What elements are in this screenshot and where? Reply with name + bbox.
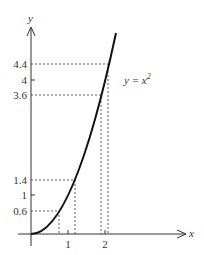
x-tick-1: 1 (65, 238, 71, 250)
y-tick-0-6: 0.6 (13, 205, 27, 217)
y-tick-3-6: 3.6 (13, 89, 27, 101)
y-tick-4: 4 (22, 74, 28, 86)
y-tick-1-4: 1.4 (13, 174, 27, 186)
y-tick-4-4: 4.4 (13, 58, 27, 70)
curve-label: y = x2 (123, 72, 151, 86)
x-tick-2: 2 (102, 238, 108, 250)
y-tick-1: 1 (22, 189, 28, 201)
curve-y-equals-x-squared (31, 33, 116, 234)
chart: y x 4.4 4 3.6 1.4 1 0.6 1 2 y = x2 (0, 0, 204, 255)
y-axis-label: y (27, 12, 33, 24)
guide-lines (31, 64, 108, 234)
x-axis-label: x (188, 227, 194, 239)
